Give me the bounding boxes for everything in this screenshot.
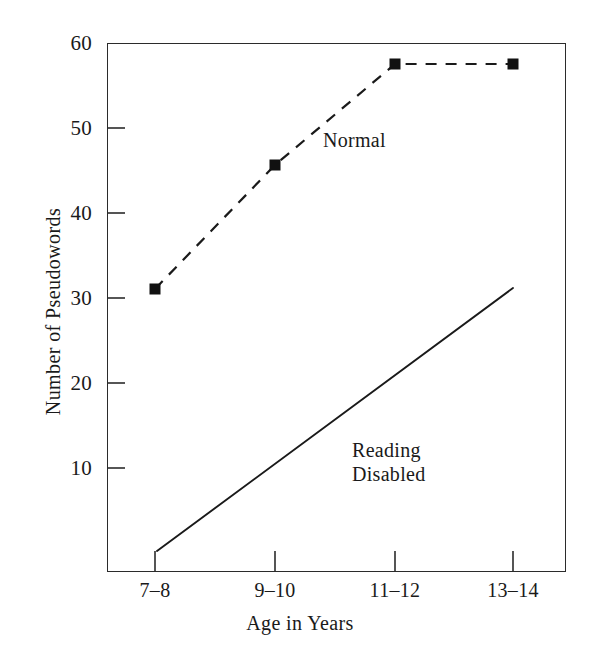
x-tick-label-7-8: 7–8 [100,580,210,600]
plot-frame [107,43,566,572]
series-annotation-reading-disabled: Reading Disabled [352,438,426,486]
y-axis-title: Number of Pseudowords [42,152,65,472]
x-tick-label-13-14: 13–14 [458,580,568,600]
y-tick-label-60: 60 [46,33,92,54]
figure-container: 60 50 40 30 20 10 7–8 9–10 11–12 13–14 A… [0,0,600,665]
series-annotation-normal: Normal [323,128,386,152]
x-tick-label-11-12: 11–12 [340,580,450,600]
x-tick-label-9-10: 9–10 [220,580,330,600]
x-axis-title: Age in Years [150,612,450,635]
y-tick-label-50: 50 [46,118,92,139]
